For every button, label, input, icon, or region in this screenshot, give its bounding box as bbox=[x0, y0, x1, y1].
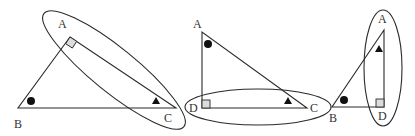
dot-angle-mark-icon bbox=[340, 96, 348, 104]
right-angle-square-icon bbox=[202, 100, 210, 108]
triangle-abc bbox=[18, 37, 176, 108]
label-d: D bbox=[189, 101, 198, 115]
right-angle-marker bbox=[66, 37, 77, 48]
triangle-abd bbox=[332, 30, 384, 107]
figure-3: A B D bbox=[329, 10, 402, 126]
highlight-ellipse-ac bbox=[30, 0, 198, 136]
label-b: B bbox=[329, 111, 337, 125]
label-a: A bbox=[193, 17, 202, 31]
diagram-canvas: A B C A D C A B D bbox=[0, 0, 415, 136]
right-angle-square-icon bbox=[376, 99, 384, 107]
figure-1: A B C bbox=[14, 0, 198, 136]
dot-angle-mark-icon bbox=[204, 40, 212, 48]
triangle-angle-mark-icon bbox=[375, 45, 383, 52]
figure-2: A D C bbox=[185, 17, 331, 125]
triangle-angle-mark-icon bbox=[284, 97, 292, 104]
label-b: B bbox=[14, 117, 22, 131]
label-d: D bbox=[378, 109, 387, 123]
dot-angle-mark-icon bbox=[27, 97, 35, 105]
label-a: A bbox=[378, 12, 387, 26]
right-angle-square-icon bbox=[66, 37, 77, 48]
triangle-adc bbox=[202, 32, 307, 108]
triangle-angle-mark-icon bbox=[152, 97, 160, 104]
label-c: C bbox=[310, 101, 318, 115]
label-c: C bbox=[164, 111, 172, 125]
label-a: A bbox=[58, 17, 67, 31]
